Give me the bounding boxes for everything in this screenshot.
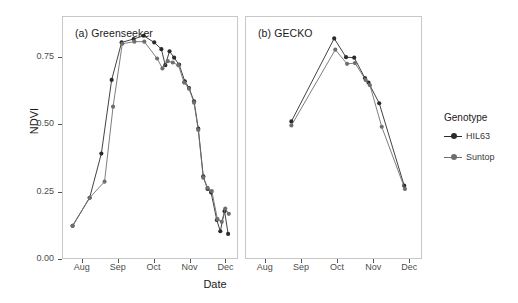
data-point [227, 212, 231, 216]
panel-gecko: (b) GECKO [245, 16, 422, 259]
data-point [333, 48, 337, 52]
panel-greenseeker-title: (a) Greenseeker [75, 27, 153, 39]
x-tick-label: Sep [98, 262, 138, 272]
x-tick-label: Oct [134, 262, 174, 272]
data-point [364, 78, 368, 82]
data-point [353, 61, 357, 65]
x-axis-title: Date [0, 278, 430, 290]
data-point [99, 151, 103, 155]
y-tick-label: 0.75 [10, 51, 54, 61]
data-point [345, 62, 349, 66]
data-point [166, 59, 170, 63]
x-tick-label: Nov [353, 262, 393, 272]
legend-title: Genotype [444, 112, 518, 123]
data-point [368, 83, 372, 87]
x-tick-label: Sep [281, 262, 321, 272]
series-suntop [71, 40, 231, 228]
x-tick-label: Dec [389, 262, 429, 272]
data-point [132, 40, 136, 44]
series-hil63 [289, 36, 406, 187]
legend-item-hil63[interactable]: HIL63 [444, 130, 518, 142]
data-point [332, 36, 336, 40]
data-point [187, 87, 191, 91]
legend-key-icon [444, 151, 462, 163]
y-tick-label: 0.25 [10, 186, 54, 196]
data-point [344, 55, 348, 59]
legend-key-icon [444, 130, 462, 142]
x-tick-label: Aug [62, 262, 102, 272]
data-point [71, 224, 75, 228]
data-point [167, 49, 171, 53]
x-tick-label: Nov [170, 262, 210, 272]
series-hil63 [71, 34, 231, 236]
data-point [160, 66, 164, 70]
series-line [73, 36, 229, 234]
data-point [182, 81, 186, 85]
panel-gecko-plot [246, 17, 421, 258]
data-point [120, 42, 124, 46]
data-point [403, 187, 407, 191]
data-point [159, 47, 163, 51]
data-point [201, 176, 205, 180]
panel-greenseeker-plot [63, 17, 237, 258]
y-tick-label: 0.00 [10, 253, 54, 263]
x-tick-label: Oct [317, 262, 357, 272]
data-point [226, 232, 230, 236]
data-point [152, 40, 156, 44]
panel-gecko-title: (b) GECKO [258, 27, 313, 39]
data-point [289, 123, 293, 127]
series-suntop [289, 48, 407, 191]
legend-item-suntop[interactable]: Suntop [444, 151, 518, 163]
data-point [218, 229, 222, 233]
data-point [380, 125, 384, 129]
data-point [196, 128, 200, 132]
data-point [155, 56, 159, 60]
data-point [111, 105, 115, 109]
data-point [172, 56, 176, 60]
data-point [176, 63, 180, 67]
legend: Genotype HIL63Suntop [444, 112, 518, 172]
data-point [192, 101, 196, 105]
data-point [88, 196, 92, 200]
data-point [205, 186, 209, 190]
data-point [110, 78, 114, 82]
series-line [291, 50, 405, 189]
data-point [220, 220, 224, 224]
data-point [377, 101, 381, 105]
ndvi-figure: NDVI 0.000.250.500.75 (a) Greenseeker (b… [0, 0, 518, 303]
legend-item-label: HIL63 [466, 131, 490, 141]
data-point [102, 180, 106, 184]
x-tick-label: Aug [245, 262, 285, 272]
y-tick-label: 0.50 [10, 118, 54, 128]
x-tick-label: Dec [205, 262, 245, 272]
data-point [210, 189, 214, 193]
data-point [171, 60, 175, 64]
y-tick-mark [58, 259, 62, 260]
legend-entries: HIL63Suntop [444, 130, 518, 163]
series-line [73, 42, 229, 226]
data-point [215, 217, 219, 221]
panel-greenseeker: (a) Greenseeker [62, 16, 238, 259]
data-point [223, 206, 227, 210]
series-line [291, 38, 404, 185]
data-point [142, 40, 146, 44]
data-point [352, 56, 356, 60]
legend-item-label: Suntop [466, 152, 495, 162]
